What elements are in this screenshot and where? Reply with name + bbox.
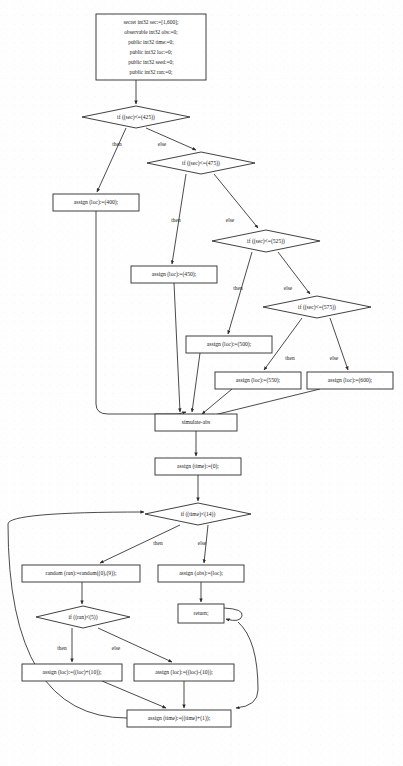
flowchart-canvas: secret int32 sec:=[1,600];observable int… [0, 0, 403, 766]
node-label: assign (loc):=(550); [236, 377, 281, 384]
process-node[interactable]: assign (loc):=(600); [307, 372, 393, 389]
flow-edge [102, 681, 166, 708]
decision-node[interactable]: if ((sec)<=(575)) [263, 296, 371, 318]
nodes-layer: secret int32 sec:=[1,600];observable int… [22, 14, 393, 727]
edge-label-then: then [233, 285, 243, 291]
flow-edge [100, 525, 180, 563]
decision-node[interactable]: if ((sec)<=(425)) [82, 106, 190, 128]
process-node[interactable]: assign (time):=(0); [155, 458, 241, 475]
decision-node[interactable]: if ((time)<(14)) [145, 503, 251, 525]
edge-label-else: else [284, 285, 293, 291]
process-node[interactable]: assign (loc):=(450); [131, 266, 217, 283]
node-label: if ((sec)<=(525)) [247, 238, 285, 245]
node-label: simulate-abs [182, 419, 210, 425]
flow-edge [174, 283, 180, 412]
flow-edge [330, 318, 348, 370]
edge-label-else: else [198, 540, 207, 546]
node-text-line: public int32 loc:=0; [130, 49, 173, 55]
process-node[interactable]: assign (loc):=(500); [186, 336, 272, 353]
edge-label-then: then [171, 217, 181, 223]
node-label: if ((sec)<=(475)) [182, 160, 220, 167]
node-label: assign (loc):=(400); [74, 199, 119, 206]
node-label: assign (time):=(0); [177, 463, 219, 470]
decision-node[interactable]: if ((sec)<=(475)) [147, 152, 255, 174]
node-label: assign (time):=((time)+(1)); [148, 715, 211, 722]
edge-label-then: then [57, 645, 67, 651]
process-node[interactable]: assign (loc):=(400); [53, 194, 139, 211]
process-node[interactable]: return; [178, 604, 224, 623]
flow-edge [224, 608, 242, 620]
process-node[interactable]: assign (loc):=(550); [215, 372, 301, 389]
edge-label-else: else [330, 355, 339, 361]
node-label: assign (loc):=(600); [328, 377, 373, 384]
process-node[interactable]: assign (loc):=((loc)-(10)); [134, 664, 234, 681]
process-node[interactable]: simulate-abs [155, 414, 237, 431]
flow-edge [202, 389, 232, 414]
flow-edge [98, 628, 172, 662]
process-node[interactable]: random (ran):=random((0),(9)); [22, 565, 140, 582]
edge-label-then: then [153, 540, 163, 546]
flowchart-root: secret int32 sec:=[1,600];observable int… [0, 0, 403, 766]
node-label: if ((sec)<=(425)) [117, 114, 155, 121]
node-text-line: public int32 ran:=0; [130, 69, 173, 75]
process-node[interactable]: assign (obs):=(loc); [158, 565, 244, 582]
edge-label-else: else [158, 141, 167, 147]
edge-label-else: else [112, 645, 121, 651]
process-node[interactable]: secret int32 sec:=[1,600];observable int… [96, 14, 206, 80]
flow-edge [192, 353, 200, 412]
flow-edge [236, 622, 258, 708]
node-label: return; [194, 610, 209, 616]
flow-edge [228, 252, 252, 334]
process-node[interactable]: assign (loc):=((loc)+(10)); [22, 664, 122, 681]
node-label: if ((sec)<=(575)) [298, 304, 336, 311]
edge-label-else: else [226, 217, 235, 223]
node-label: assign (loc):=(450); [152, 271, 197, 278]
edge-label-then: then [112, 141, 122, 147]
node-label: if ((time)<(14)) [181, 511, 216, 518]
decision-node[interactable]: if ((ran)<(5)) [36, 606, 130, 628]
node-label: assign (loc):=(500); [207, 341, 252, 348]
flow-edge [214, 174, 258, 228]
process-node[interactable]: assign (time):=((time)+(1)); [127, 710, 231, 727]
edge-label-then: then [285, 355, 295, 361]
node-label: if ((ran)<(5)) [68, 614, 97, 621]
node-text-line: observable int32 obs:=0; [124, 29, 178, 35]
flow-edge [146, 128, 196, 150]
flow-edge [97, 128, 126, 192]
decision-node[interactable]: if ((sec)<=(525)) [212, 230, 320, 252]
flow-edge [96, 211, 186, 414]
node-label: assign (loc):=((loc)-(10)); [155, 669, 213, 676]
node-label: assign (obs):=(loc); [179, 570, 223, 577]
node-label: random (ran):=random((0),(9)); [46, 570, 117, 577]
flow-edge [278, 252, 310, 294]
node-label: assign (loc):=((loc)+(10)); [43, 669, 102, 676]
node-text-line: secret int32 sec:=[1,600]; [124, 19, 179, 25]
node-text-line: public int32 time:=0; [128, 39, 174, 45]
node-text-line: public int32 seed:=0; [128, 59, 174, 65]
